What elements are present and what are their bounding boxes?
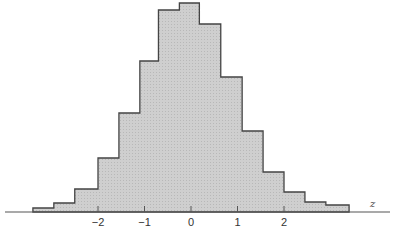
histogram-bars	[33, 3, 349, 212]
x-axis-label: z	[369, 198, 376, 209]
histogram-area	[33, 3, 349, 212]
x-tick-label: −2	[92, 216, 105, 228]
histogram-chart: −2−1012 z	[0, 0, 395, 228]
x-tick-label: 2	[281, 216, 287, 228]
x-tick-label: 0	[188, 216, 194, 228]
x-tick-label: −1	[138, 216, 151, 228]
x-tick-label: 1	[234, 216, 240, 228]
